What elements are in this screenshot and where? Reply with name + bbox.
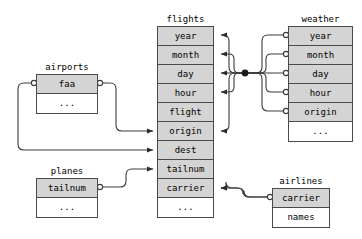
field-flights-flight: flight xyxy=(158,103,213,122)
entity-box-airlines: carriernames xyxy=(272,188,330,228)
entity-box-flights: yearmonthdayhourflightorigindesttailnumc… xyxy=(157,26,214,218)
entity-title-flights: flights xyxy=(157,14,214,25)
connector-airlines-carrier-to-flights-carrier-2 xyxy=(221,188,269,197)
entity-title-airports: airports xyxy=(36,62,98,73)
field-planes-ellipsisellipsisellipsis: ... xyxy=(37,198,97,217)
connector-branch-weather-hour xyxy=(245,73,285,92)
field-airlines-carrier: carrier xyxy=(273,189,329,208)
field-airports-faa: faa xyxy=(37,75,97,94)
connector-airlines-carrier-to-flights-carrier xyxy=(221,182,269,197)
field-planes-tailnum: tailnum xyxy=(37,179,97,198)
entity-title-weather: weather xyxy=(288,14,353,25)
field-weather-month: month xyxy=(289,46,352,65)
connector-airports-faa-to-flights-origin xyxy=(101,83,153,131)
field-flights-hour: hour xyxy=(158,84,213,103)
endpoint-airports-faa-right xyxy=(97,80,102,85)
composite-key-junction-dot xyxy=(242,70,249,77)
connector-planes-tailnum-to-flights-tailnum xyxy=(101,169,153,187)
entity-box-planes: tailnum... xyxy=(36,178,98,218)
field-weather-year: year xyxy=(289,27,352,46)
field-flights-origin: origin xyxy=(158,122,213,141)
connector-weather-month-to-flights-month xyxy=(221,54,245,73)
field-airports-ellipsisellipsisellipsis: ... xyxy=(37,94,97,113)
field-weather-day: day xyxy=(289,65,352,84)
connector-weather-hour-to-flights-hour xyxy=(221,73,245,92)
field-flights-dest: dest xyxy=(158,141,213,160)
field-flights-carrier: carrier xyxy=(158,179,213,198)
field-airlines-names: names xyxy=(273,208,329,227)
field-flights-day: day xyxy=(158,65,213,84)
field-flights-tailnum: tailnum xyxy=(158,160,213,179)
field-flights-ellipsisellipsisellipsis: ... xyxy=(158,198,213,217)
field-flights-month: month xyxy=(158,46,213,65)
entity-box-airports: faa... xyxy=(36,74,98,114)
connector-weather-origin-to-flights-origin xyxy=(221,73,245,131)
endpoint-planes-tailnum xyxy=(97,184,102,189)
field-flights-year: year xyxy=(158,27,213,46)
entity-title-airlines: airlines xyxy=(272,176,330,187)
field-weather-origin: origin xyxy=(289,103,352,122)
connector-branch-weather-month xyxy=(245,54,285,73)
entity-title-planes: planes xyxy=(36,166,98,177)
field-weather-hour: hour xyxy=(289,84,352,103)
er-diagram: flights yearmonthdayhourflightorigindest… xyxy=(0,0,362,239)
entity-box-weather: yearmonthdayhourorigin... xyxy=(288,26,353,142)
field-weather-ellipsisellipsisellipsis: ... xyxy=(289,122,352,141)
